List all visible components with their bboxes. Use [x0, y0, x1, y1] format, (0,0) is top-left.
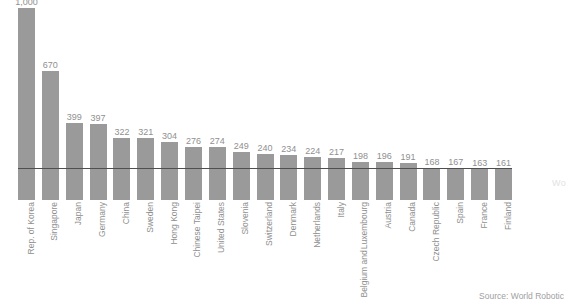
bar-value-label: 240 — [257, 143, 272, 153]
bar — [495, 169, 512, 200]
bar-slot: 196 — [376, 8, 393, 200]
bar — [185, 147, 202, 200]
category-label: Canada — [400, 202, 417, 284]
category-label: Italy — [328, 202, 345, 284]
bar-slot: 321 — [137, 8, 154, 200]
bar-slot: 217 — [328, 8, 345, 200]
bar-slot: 1,000 — [18, 8, 35, 200]
bar-value-label: 276 — [186, 136, 201, 146]
bar-value-label: 397 — [91, 113, 106, 123]
bar-slot: 397 — [90, 8, 107, 200]
bar — [471, 169, 488, 200]
bar-value-label: 163 — [472, 158, 487, 168]
bar — [161, 142, 178, 200]
bar-slot: 240 — [257, 8, 274, 200]
bar — [257, 154, 274, 200]
category-label: Sweden — [137, 202, 154, 284]
bar — [447, 168, 464, 200]
source-note: Source: World Robotic — [479, 291, 564, 301]
bar-value-label: 168 — [424, 157, 439, 167]
bar-slot: 670 — [42, 8, 59, 200]
bar — [328, 158, 345, 200]
bar-slot: 322 — [113, 8, 130, 200]
bar-slot: 249 — [233, 8, 250, 200]
category-label: Switzerland — [257, 202, 274, 284]
bar-value-label: 196 — [377, 151, 392, 161]
category-label: Hong Kong — [161, 202, 178, 284]
bar-slot: 163 — [471, 8, 488, 200]
bar-slot: 191 — [400, 8, 417, 200]
category-label: Japan — [66, 202, 83, 284]
category-label: Belgium andLuxembourg — [352, 202, 369, 284]
bar-slot: 274 — [209, 8, 226, 200]
bar — [209, 147, 226, 200]
bar-value-label: 399 — [67, 112, 82, 122]
bar — [304, 157, 321, 200]
category-label: Rep. of Korea — [18, 202, 35, 284]
bar-chart: Wo 1,00067039939732232130427627424924023… — [0, 0, 568, 306]
bar-value-label: 167 — [448, 157, 463, 167]
bar-slot: 276 — [185, 8, 202, 200]
category-label: France — [471, 202, 488, 284]
category-label: Germany — [90, 202, 107, 284]
bar-value-label: 304 — [162, 131, 177, 141]
bar-value-label: 198 — [353, 151, 368, 161]
bar-value-label: 322 — [114, 127, 129, 137]
bar — [18, 8, 35, 200]
bar-value-label: 234 — [281, 144, 296, 154]
bar — [42, 71, 59, 200]
category-label: China — [113, 202, 130, 284]
bar-value-label: 1,000 — [15, 0, 38, 7]
bar-slot: 224 — [304, 8, 321, 200]
bar — [233, 152, 250, 200]
bar — [423, 168, 440, 200]
category-axis-labels: Rep. of KoreaSingaporeJapanGermanyChinaS… — [18, 202, 512, 284]
category-label: Finland — [495, 202, 512, 284]
category-label: Spain — [447, 202, 464, 284]
category-label: Denmark — [280, 202, 297, 284]
reference-line — [18, 168, 512, 169]
bar-slot: 198 — [352, 8, 369, 200]
bar-value-label: 274 — [210, 136, 225, 146]
bar-slot: 168 — [423, 8, 440, 200]
bar-slot: 161 — [495, 8, 512, 200]
category-label: Netherlands — [304, 202, 321, 284]
bar — [280, 155, 297, 200]
category-label: Singapore — [42, 202, 59, 284]
category-label: Slovenia — [233, 202, 250, 284]
bar — [90, 124, 107, 200]
bar-value-label: 670 — [43, 60, 58, 70]
plot-area: 1,00067039939732232130427627424924023422… — [18, 8, 512, 200]
bar — [66, 123, 83, 200]
category-label: Austria — [376, 202, 393, 284]
bar-value-label: 217 — [329, 147, 344, 157]
bar-value-label: 191 — [401, 152, 416, 162]
watermark-text: Wo — [552, 178, 566, 188]
bar-slot: 304 — [161, 8, 178, 200]
category-label: Chinese Taipei — [185, 202, 202, 284]
bar-value-label: 249 — [234, 141, 249, 151]
bar-slot: 167 — [447, 8, 464, 200]
bar-value-label: 321 — [138, 127, 153, 137]
category-label: Czech Republic — [423, 202, 440, 284]
bar-slot: 399 — [66, 8, 83, 200]
bar-slot: 234 — [280, 8, 297, 200]
bar-value-label: 161 — [496, 158, 511, 168]
category-label: United States — [209, 202, 226, 284]
bar-value-label: 224 — [305, 146, 320, 156]
